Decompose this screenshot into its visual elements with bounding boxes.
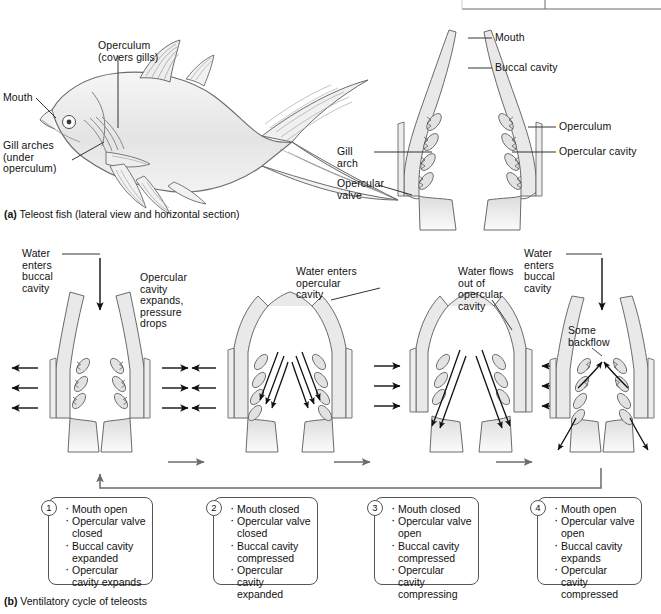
step-box-4[interactable]: Mouth open Opercular valve open Buccal c…: [537, 497, 642, 585]
panel-a-caption-tag: (a): [4, 208, 17, 220]
section-label-gill-arch: Gill arch: [337, 146, 375, 169]
section-label-operculum: Operculum: [559, 121, 611, 133]
section-label-opercular-valve: Opercular valve: [337, 178, 397, 201]
section-label-buccal-cavity: Buccal cavity: [495, 62, 558, 74]
cycle-annotation-stage2: Water enters opercular cavity: [296, 266, 376, 301]
step-number-1: 1: [41, 500, 57, 516]
step-4-item: Opercular valve open: [554, 515, 636, 539]
step-number-2: 2: [206, 500, 222, 516]
top-partial-rule: [462, 0, 661, 9]
cycle-feedback-loop-arrow: [100, 468, 601, 488]
step-number-4: 4: [530, 500, 546, 516]
step-2-item: Opercular valve closed: [230, 515, 312, 539]
step-box-1[interactable]: Mouth open Opercular valve closed Buccal…: [48, 497, 153, 585]
panel-a-caption: (a) Teleost fish (lateral view and horiz…: [4, 208, 240, 220]
step-2-item: Buccal cavity compressed: [230, 540, 312, 564]
step-1-item: Mouth open: [65, 503, 147, 515]
step-2-list: Mouth closed Opercular valve closed Bucc…: [230, 503, 312, 601]
panel-a-caption-text: Teleost fish (lateral view and horizonta…: [17, 208, 240, 220]
step-3-item: Mouth closed: [391, 503, 473, 515]
cycle-annotation-stage4-backflow: Some backflow: [568, 325, 626, 348]
step-3-item: Buccal cavity compressed: [391, 540, 473, 564]
cycle-annotation-stage1: Water enters buccal cavity: [22, 248, 66, 294]
panel-b-caption-tag: (b): [4, 595, 17, 607]
cycle-annotation-stage3: Water flows out of opercular cavity: [458, 266, 532, 312]
cycle-stage-3-illustration: [374, 292, 568, 452]
fish-label-mouth: Mouth: [3, 92, 53, 104]
figure-canvas: Operculum (covers gills) Mouth Gill arch…: [0, 0, 661, 614]
panel-b-caption-text: Ventilatory cycle of teleosts: [17, 595, 147, 607]
step-box-3[interactable]: Mouth closed Opercular valve open Buccal…: [374, 497, 479, 585]
step-2-item: Mouth closed: [230, 503, 312, 515]
cycle-annotation-stage4: Water enters buccal cavity: [524, 248, 568, 294]
section-label-mouth: Mouth: [495, 32, 525, 44]
step-2-item: Opercular cavity expanded: [230, 564, 312, 601]
cycle-stage-2-illustration: [192, 288, 380, 452]
step-3-item: Opercular valve open: [391, 515, 473, 539]
step-4-item: Opercular cavity compressed: [554, 564, 636, 601]
step-4-item: Buccal cavity expands: [554, 540, 636, 564]
step-1-item: Opercular valve closed: [65, 515, 147, 539]
cycle-annotation-stage1b: Opercular cavity expands, pressure drops: [140, 272, 202, 330]
step-box-2[interactable]: Mouth closed Opercular valve closed Bucc…: [213, 497, 318, 585]
section-label-opercular-cavity: Opercular cavity: [559, 146, 637, 158]
step-3-list: Mouth closed Opercular valve open Buccal…: [391, 503, 473, 601]
horizontal-section-illustration: [374, 30, 556, 230]
step-1-item: Buccal cavity expanded: [65, 540, 147, 564]
fish-label-gill-arches: Gill arches (under operculum): [3, 140, 75, 175]
step-4-list: Mouth open Opercular valve open Buccal c…: [554, 503, 636, 601]
step-1-item: Opercular cavity expands: [65, 564, 147, 588]
panel-b-caption: (b) Ventilatory cycle of teleosts: [4, 595, 147, 607]
step-3-item: Opercular cavity compressing: [391, 564, 473, 601]
fish-label-operculum: Operculum (covers gills): [98, 40, 208, 63]
step-4-item: Mouth open: [554, 503, 636, 515]
step-number-3: 3: [367, 500, 383, 516]
step-1-list: Mouth open Opercular valve closed Buccal…: [65, 503, 147, 588]
